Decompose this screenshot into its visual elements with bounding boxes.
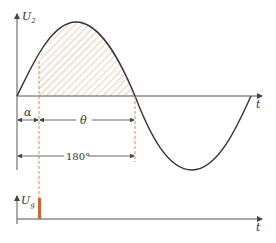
half-period-label: 180° [66, 151, 90, 162]
theta-label: θ [80, 114, 87, 127]
top-x-axis-label: t [256, 98, 261, 111]
bottom-x-axis-label: t [256, 221, 261, 234]
alpha-label: α [24, 106, 32, 119]
trigger-pulse [38, 198, 41, 219]
diagram-canvas: α θ 180° U2 t Ug t [0, 0, 276, 243]
top-y-axis-label: U2 [22, 10, 36, 25]
bottom-y-axis-label: Ug [21, 194, 35, 209]
thyristor-waveform-diagram: α θ 180° U2 t Ug t [0, 0, 276, 243]
